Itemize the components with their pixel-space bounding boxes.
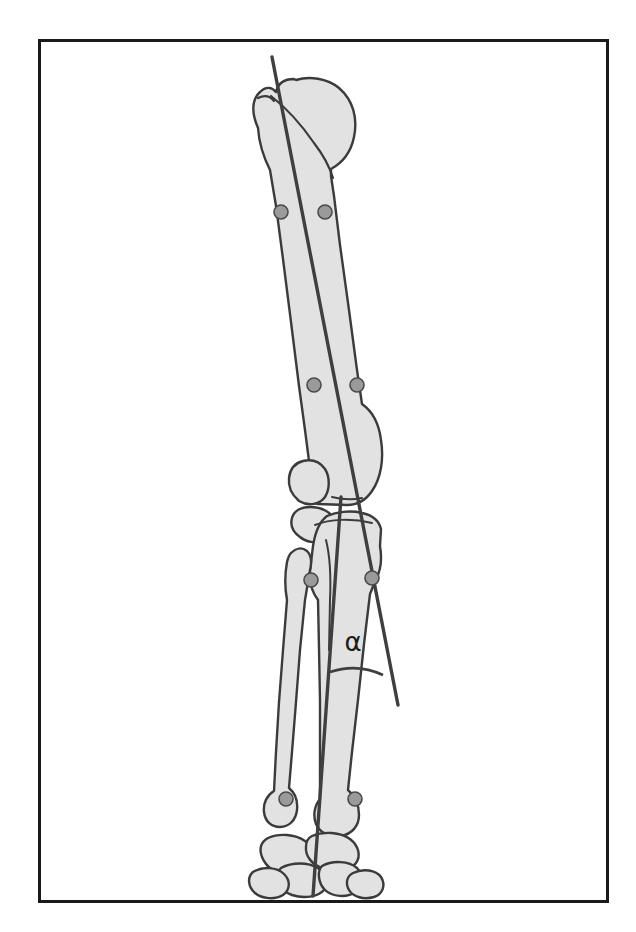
landmark-femur-distal-lateral-cortex — [350, 378, 364, 392]
landmark-tibia-distal-lateral-cortex — [348, 792, 362, 806]
patella-bone — [289, 460, 329, 504]
landmark-femur-proximal-lateral-cortex — [318, 205, 332, 219]
anatomical-diagram: Canine hind limb alignment diagram Later… — [0, 0, 636, 932]
tarsus-metatarsal-stub — [347, 870, 383, 898]
figure-root: Canine hind limb alignment diagram Later… — [0, 0, 636, 932]
landmark-tibia-proximal-medial-cortex — [304, 573, 318, 587]
landmark-femur-proximal-medial-cortex — [274, 205, 288, 219]
landmark-tibia-distal-medial-cortex — [279, 792, 293, 806]
tarsus-distal-row-medial — [249, 868, 289, 898]
angle-alpha-label: α — [344, 627, 361, 657]
landmark-tibia-proximal-lateral-cortex — [365, 571, 379, 585]
landmark-femur-distal-medial-cortex — [307, 378, 321, 392]
